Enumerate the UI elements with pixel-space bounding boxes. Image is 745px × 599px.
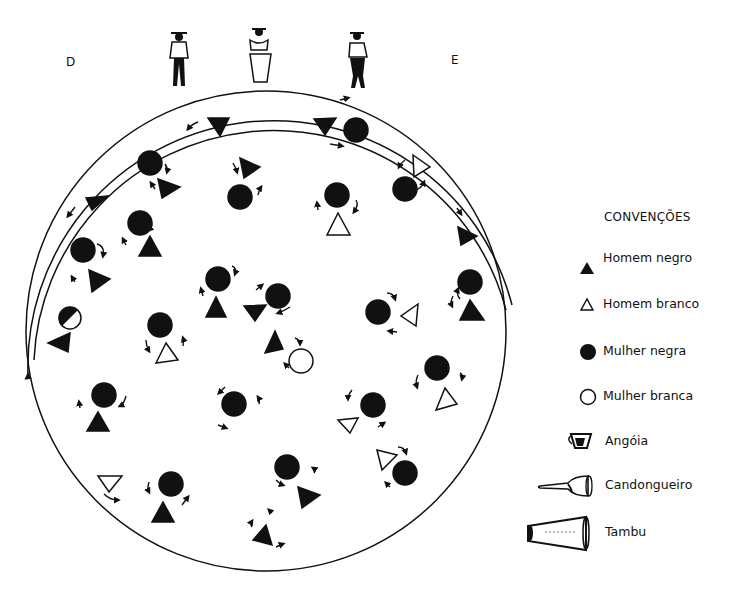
musician-candongueiro-icon [349,32,367,88]
legend-item-mulher-branca: Mulher branca [603,388,693,403]
dance-circle [26,91,506,571]
musician-tambu-icon [250,28,271,82]
legend-item-tambu: Tambu [605,524,646,539]
legend-item-homem-negro: Homem negro [603,250,692,265]
legend-item-homem-branco: Homem branco [603,296,699,311]
musician-angoia-icon [170,32,188,86]
legend-title: CONVENÇÕES [604,210,691,224]
legend-item-mulher-negra: Mulher negra [603,343,686,358]
legend-item-angoia: Angóia [605,433,648,448]
legend-item-candongueiro: Candongueiro [605,477,692,492]
